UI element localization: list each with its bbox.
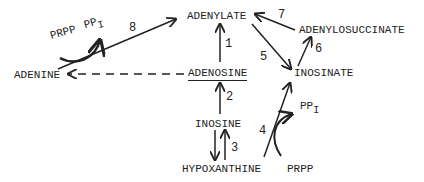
- edge-label-3: 3: [231, 142, 238, 154]
- node-adenylosuccinate: ADENYLOSUCCINATE: [299, 24, 405, 36]
- node-prpp-bottom: PRPP: [287, 163, 313, 175]
- purine-pathway-diagram: ADENYLATE ADENYLOSUCCINATE ADENINE ADENO…: [0, 0, 424, 182]
- edge-label-1: 1: [225, 38, 232, 50]
- edge-label-6: 6: [315, 43, 322, 55]
- edge-label-5: 5: [260, 51, 267, 63]
- node-adenylate: ADENYLATE: [187, 10, 246, 22]
- arrow-5-adenylate-to-inosinate: [252, 24, 291, 69]
- arrow-3-inosine-hypoxanthine: [215, 130, 225, 160]
- arrow-7-adenylosuccinate-to-adenylate: [255, 14, 295, 30]
- edge-label-7: 7: [278, 9, 285, 21]
- arrow-8-adenine-to-adenylate: [58, 19, 176, 69]
- arrow-6-inosinate-to-adenylosuccinate: [298, 37, 311, 66]
- node-hypoxanthine: HYPOXANTHINE: [182, 163, 261, 175]
- edge-label-4: 4: [259, 125, 266, 137]
- edge-label-2: 2: [226, 91, 233, 103]
- node-inosinate: INOSINATE: [294, 67, 353, 79]
- edge-label-8: 8: [129, 22, 136, 34]
- arrow-4-hypoxanthine-to-inosinate: [264, 83, 292, 157]
- cofactor-ppi-bottom: PPI: [300, 100, 319, 113]
- node-adenosine: ADENOSINE: [188, 67, 247, 81]
- node-adenine: ADENINE: [14, 69, 60, 81]
- node-inosine: INOSINE: [195, 118, 241, 130]
